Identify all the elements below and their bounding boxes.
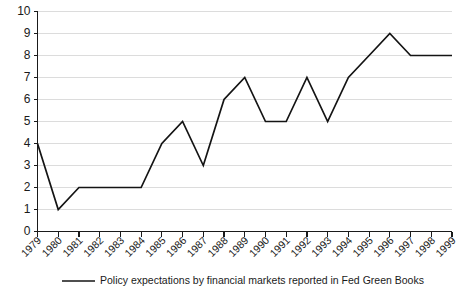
y-tick-label: 9 [24, 26, 31, 40]
x-tick-label: 1983 [101, 234, 126, 259]
x-tick-label: 1980 [39, 234, 64, 259]
x-axis-tickmarks [38, 232, 453, 237]
x-tick-label: 1990 [246, 234, 271, 259]
gridlines [38, 12, 453, 232]
x-tick-label: 1989 [226, 234, 251, 259]
line-chart: 012345678910 197919801981198219831984198… [0, 0, 462, 294]
x-axis-tick-labels: 1979198019811982198319841985198619871988… [18, 234, 458, 259]
x-tick-label: 1994 [329, 234, 354, 259]
x-tick-label: 1998 [412, 234, 437, 259]
x-tick-label: 1992 [288, 234, 313, 259]
chart-container: 012345678910 197919801981198219831984198… [0, 0, 462, 294]
x-tick-label: 1995 [350, 234, 375, 259]
x-tick-label: 1987 [184, 234, 209, 259]
y-tick-label: 3 [24, 158, 31, 172]
x-tick-label: 1993 [309, 234, 334, 259]
y-tick-label: 0 [24, 224, 31, 238]
x-tick-label: 1991 [267, 234, 292, 259]
legend: Policy expectations by financial markets… [62, 274, 424, 286]
x-tick-label: 1988 [205, 234, 230, 259]
y-axis-tick-labels: 012345678910 [17, 4, 31, 238]
y-tick-label: 6 [24, 92, 31, 106]
y-tick-label: 8 [24, 48, 31, 62]
y-tick-label: 7 [24, 70, 31, 84]
y-tick-label: 1 [24, 202, 31, 216]
x-tick-label: 1985 [143, 234, 168, 259]
legend-label: Policy expectations by financial markets… [100, 274, 424, 286]
x-tick-label: 1981 [60, 234, 85, 259]
x-tick-label: 1979 [18, 234, 43, 259]
y-tick-label: 10 [17, 4, 31, 18]
x-tick-label: 1986 [163, 234, 188, 259]
y-tick-label: 2 [24, 180, 31, 194]
x-tick-label: 1996 [371, 234, 396, 259]
x-tick-label: 1999 [433, 234, 458, 259]
y-tick-label: 5 [24, 114, 31, 128]
y-tick-label: 4 [24, 136, 31, 150]
x-tick-label: 1997 [391, 234, 416, 259]
x-tick-label: 1982 [81, 234, 106, 259]
x-tick-label: 1984 [122, 234, 147, 259]
